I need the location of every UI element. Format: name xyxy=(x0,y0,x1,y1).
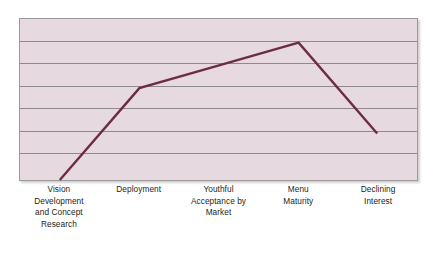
x-axis-label-menu-maturity: Menu Maturity xyxy=(258,184,338,207)
plot-area xyxy=(19,18,418,181)
x-axis-labels: Vision Development and Concept Research … xyxy=(19,184,418,250)
series-line-group xyxy=(20,19,417,180)
x-axis-label-youthful-acceptance: Youthful Acceptance by Market xyxy=(179,184,259,219)
series-line-lifecycle xyxy=(60,43,377,180)
x-axis-label-vision-development: Vision Development and Concept Research xyxy=(19,184,99,230)
lifecycle-line-chart: Vision Development and Concept Research … xyxy=(0,0,435,253)
x-axis-label-deployment: Deployment xyxy=(99,184,179,196)
x-axis-label-declining-interest: Declining Interest xyxy=(338,184,418,207)
